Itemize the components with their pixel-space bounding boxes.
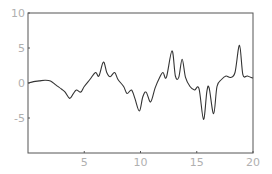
x-tick-label: 20 (246, 156, 260, 169)
y-tick-label: 5 (18, 42, 25, 55)
plot-area (28, 13, 253, 153)
y-axis-ticks: 1050-5 (11, 7, 30, 125)
x-tick-label: 5 (81, 156, 88, 169)
x-tick-label: 10 (134, 156, 148, 169)
y-tick-label: 10 (11, 7, 25, 20)
data-line (28, 45, 253, 119)
x-tick-label: 15 (190, 156, 204, 169)
y-tick-label: -5 (14, 112, 25, 125)
plot-frame (28, 13, 253, 153)
x-axis-ticks: 5101520 (81, 151, 260, 169)
line-chart: 5101520 1050-5 (0, 0, 272, 174)
y-tick-label: 0 (18, 77, 25, 90)
